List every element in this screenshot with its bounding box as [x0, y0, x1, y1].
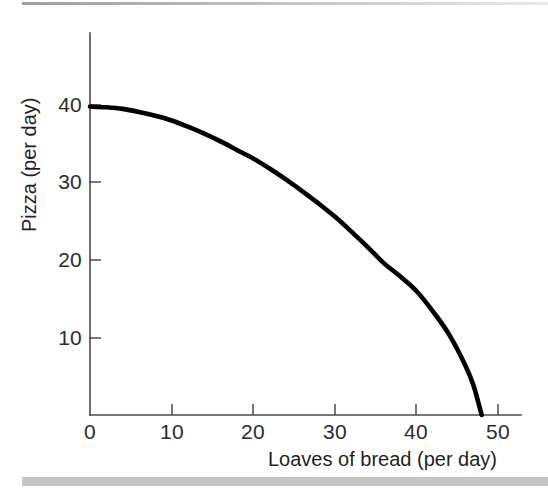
x-tick-label-10: 10 — [160, 420, 184, 444]
x-tick-label-40: 40 — [404, 420, 428, 444]
x-axis-title: Loaves of bread (per day) — [268, 448, 497, 471]
x-tick-label-0: 0 — [84, 420, 96, 444]
x-tick-label-30: 30 — [323, 420, 347, 444]
y-axis-ticks — [90, 105, 101, 338]
y-tick-label-20: 20 — [38, 248, 82, 272]
y-tick-label-10: 10 — [38, 326, 82, 350]
y-axis-title: Pizza (per day) — [18, 98, 41, 233]
ppf-figure: 0 10 20 30 40 50 40 30 20 10 Loaves of b… — [0, 0, 548, 504]
y-tick-label-40: 40 — [38, 93, 82, 117]
y-tick-label-30: 30 — [38, 170, 82, 194]
ppf-curve — [90, 107, 482, 415]
x-tick-label-20: 20 — [241, 420, 265, 444]
x-tick-label-50: 50 — [486, 420, 510, 444]
page-separator-bar — [22, 477, 548, 486]
x-axis-ticks — [172, 404, 498, 415]
ppf-plot-canvas — [0, 0, 548, 504]
